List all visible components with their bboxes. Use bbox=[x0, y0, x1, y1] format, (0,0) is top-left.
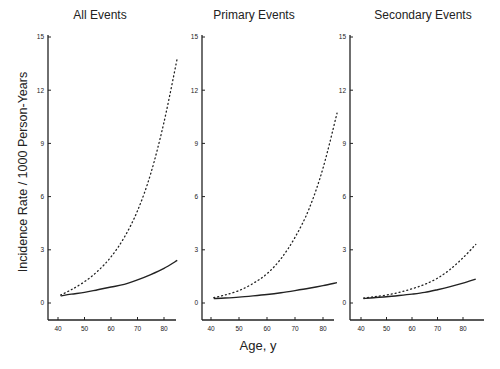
x-tick-label: 40 bbox=[207, 325, 215, 332]
y-tick-label: 0 bbox=[342, 299, 346, 306]
series-dotted-line bbox=[61, 58, 178, 295]
x-axis-label: Age, y bbox=[240, 338, 277, 353]
y-tick-label: 6 bbox=[194, 193, 198, 200]
y-tick-label: 6 bbox=[40, 193, 44, 200]
x-tick-label: 50 bbox=[235, 325, 243, 332]
y-tick-label: 12 bbox=[339, 87, 347, 94]
chart: All Events036912154050607080Primary Even… bbox=[0, 0, 500, 369]
y-tick-label: 0 bbox=[194, 299, 198, 306]
y-tick-label: 9 bbox=[40, 140, 44, 147]
x-tick-label: 50 bbox=[81, 325, 89, 332]
panel-title: Primary Events bbox=[213, 8, 294, 22]
y-tick-label: 15 bbox=[37, 33, 45, 40]
y-tick-label: 12 bbox=[191, 87, 199, 94]
x-tick-label: 40 bbox=[54, 325, 62, 332]
y-tick-label: 12 bbox=[37, 87, 45, 94]
panel-title: All Events bbox=[73, 8, 126, 22]
panels: All Events036912154050607080Primary Even… bbox=[37, 8, 484, 332]
panel-2: Primary Events036912154050607080 bbox=[191, 8, 337, 332]
x-tick-label: 60 bbox=[408, 325, 416, 332]
x-tick-label: 50 bbox=[383, 325, 391, 332]
series-dotted-line bbox=[364, 244, 476, 298]
y-tick-label: 9 bbox=[342, 140, 346, 147]
x-tick-label: 80 bbox=[319, 325, 327, 332]
x-tick-label: 80 bbox=[160, 325, 168, 332]
x-tick-label: 70 bbox=[134, 325, 142, 332]
x-tick-label: 40 bbox=[357, 325, 365, 332]
panel-title: Secondary Events bbox=[374, 8, 471, 22]
series-solid-line bbox=[61, 260, 178, 295]
x-tick-label: 60 bbox=[263, 325, 271, 332]
y-tick-label: 6 bbox=[342, 193, 346, 200]
series-solid-line bbox=[214, 283, 337, 299]
y-axis-label: Incidence Rate / 1000 Person-Years bbox=[16, 72, 30, 272]
y-tick-label: 15 bbox=[339, 33, 347, 40]
x-tick-label: 80 bbox=[459, 325, 467, 332]
panel-3: Secondary Events036912154050607080 bbox=[339, 8, 484, 332]
y-tick-label: 15 bbox=[191, 33, 199, 40]
x-tick-label: 70 bbox=[291, 325, 299, 332]
x-tick-label: 60 bbox=[107, 325, 115, 332]
panel-1: All Events036912154050607080 bbox=[37, 8, 177, 332]
series-dotted-line bbox=[214, 113, 337, 297]
y-tick-label: 3 bbox=[40, 246, 44, 253]
y-tick-label: 3 bbox=[342, 246, 346, 253]
y-tick-label: 3 bbox=[194, 246, 198, 253]
y-tick-label: 0 bbox=[40, 299, 44, 306]
x-tick-label: 70 bbox=[434, 325, 442, 332]
y-tick-label: 9 bbox=[194, 140, 198, 147]
